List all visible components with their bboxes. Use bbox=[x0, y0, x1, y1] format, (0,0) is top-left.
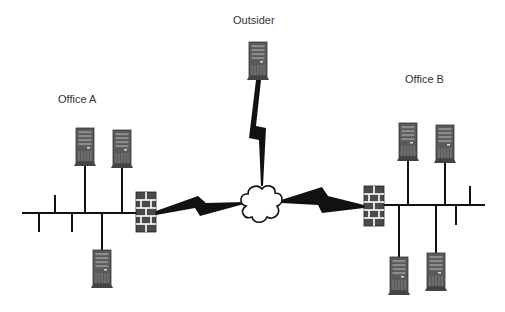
lightning-link-outsider-icon bbox=[249, 80, 266, 186]
office-a-server-1-icon bbox=[74, 128, 96, 166]
firewall-a-icon bbox=[136, 192, 156, 232]
lightning-link-office-b-icon bbox=[281, 187, 364, 213]
internet-cloud-icon bbox=[241, 186, 282, 222]
office-b-server-1-icon bbox=[397, 123, 419, 161]
lightning-link-office-a-icon bbox=[156, 196, 244, 216]
outsider-server-icon bbox=[247, 42, 269, 80]
office-a-server-2-icon bbox=[111, 130, 133, 168]
office-a-network bbox=[22, 166, 137, 250]
office-b-network bbox=[384, 160, 485, 257]
office-a-label: Office A bbox=[58, 93, 96, 105]
office-b-server-4-icon bbox=[425, 253, 447, 291]
office-a-server-3-icon bbox=[91, 250, 113, 288]
office-b-server-3-icon bbox=[388, 257, 410, 295]
office-b-label: Office B bbox=[405, 73, 444, 85]
outsider-label: Outsider bbox=[233, 14, 275, 26]
firewall-b-icon bbox=[364, 186, 384, 226]
office-b-server-2-icon bbox=[434, 125, 456, 163]
network-diagram bbox=[0, 0, 505, 312]
